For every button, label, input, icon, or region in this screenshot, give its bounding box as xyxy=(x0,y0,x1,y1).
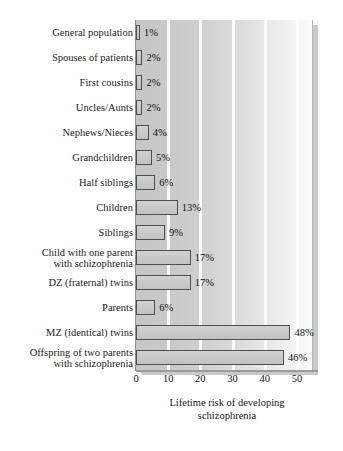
bar xyxy=(136,275,191,290)
bar-row: Half siblings6% xyxy=(0,170,343,195)
bar xyxy=(136,150,152,165)
bar-value-label: 9% xyxy=(169,227,183,238)
bar xyxy=(136,25,140,40)
bar xyxy=(136,225,165,240)
bar-row: DZ (fraternal) twins17% xyxy=(0,270,343,295)
category-label: Child with one parent with schizophrenia xyxy=(0,247,133,269)
category-label: Half siblings xyxy=(0,177,133,188)
x-tick-0: 0 xyxy=(133,373,138,384)
bar-container: 13% xyxy=(136,195,201,220)
bar-rows: General population1%Spouses of patients2… xyxy=(0,20,343,370)
category-label: Children xyxy=(0,202,133,213)
bar-container: 6% xyxy=(136,170,173,195)
category-label: DZ (fraternal) twins xyxy=(0,277,133,288)
bar-container: 2% xyxy=(136,45,160,70)
bar xyxy=(136,325,290,340)
bar xyxy=(136,125,149,140)
x-tick-20: 20 xyxy=(195,373,206,384)
bar-value-label: 17% xyxy=(195,277,214,288)
bar-value-label: 6% xyxy=(159,302,173,313)
category-label: Uncles/Aunts xyxy=(0,102,133,113)
x-axis-title: Lifetime risk of developing schizophreni… xyxy=(136,396,318,422)
bar-row: General population1% xyxy=(0,20,343,45)
bar xyxy=(136,250,191,265)
category-label: Parents xyxy=(0,302,133,313)
x-tick-10: 10 xyxy=(163,373,174,384)
bar-row: Offspring of two parents with schizophre… xyxy=(0,345,343,370)
bar-value-label: 2% xyxy=(146,52,160,63)
bar-row: Grandchildren5% xyxy=(0,145,343,170)
bar-value-label: 13% xyxy=(182,202,201,213)
category-label: Offspring of two parents with schizophre… xyxy=(0,347,133,369)
bar-container: 1% xyxy=(136,20,158,45)
category-label: Grandchildren xyxy=(0,152,133,163)
bar-container: 2% xyxy=(136,70,160,95)
bar-row: First cousins2% xyxy=(0,70,343,95)
schizophrenia-risk-bar-chart: General population1%Spouses of patients2… xyxy=(0,0,343,451)
bar-row: Child with one parent with schizophrenia… xyxy=(0,245,343,270)
bar-container: 9% xyxy=(136,220,183,245)
category-label: Nephews/Nieces xyxy=(0,127,133,138)
bar xyxy=(136,50,142,65)
category-label: Siblings xyxy=(0,227,133,238)
bar-value-label: 5% xyxy=(156,152,170,163)
category-label: First cousins xyxy=(0,77,133,88)
bar-value-label: 2% xyxy=(146,77,160,88)
bar-row: Children13% xyxy=(0,195,343,220)
bar-container: 46% xyxy=(136,345,307,370)
category-label: General population xyxy=(0,27,133,38)
bar-value-label: 48% xyxy=(294,327,313,338)
bar xyxy=(136,200,178,215)
bar-container: 48% xyxy=(136,320,314,345)
x-tick-50: 50 xyxy=(292,373,303,384)
bar-container: 17% xyxy=(136,270,214,295)
bar-container: 17% xyxy=(136,245,214,270)
bar xyxy=(136,75,142,90)
bar-row: Uncles/Aunts2% xyxy=(0,95,343,120)
bar-value-label: 6% xyxy=(159,177,173,188)
bar-row: Parents6% xyxy=(0,295,343,320)
category-label: Spouses of patients xyxy=(0,52,133,63)
x-axis-tick-labels: 01020304050 xyxy=(0,373,343,389)
bar-container: 2% xyxy=(136,95,160,120)
bar-row: Spouses of patients2% xyxy=(0,45,343,70)
bar-row: MZ (identical) twins48% xyxy=(0,320,343,345)
bar-value-label: 4% xyxy=(153,127,167,138)
bar-value-label: 2% xyxy=(146,102,160,113)
bar xyxy=(136,300,155,315)
x-tick-40: 40 xyxy=(259,373,270,384)
bar-row: Siblings9% xyxy=(0,220,343,245)
category-label: MZ (identical) twins xyxy=(0,327,133,338)
bar xyxy=(136,100,142,115)
bar-container: 4% xyxy=(136,120,167,145)
bar xyxy=(136,175,155,190)
bar-value-label: 1% xyxy=(144,27,158,38)
bar xyxy=(136,350,284,365)
bar-container: 5% xyxy=(136,145,170,170)
bar-row: Nephews/Nieces4% xyxy=(0,120,343,145)
bar-container: 6% xyxy=(136,295,173,320)
bar-value-label: 46% xyxy=(288,352,307,363)
bar-value-label: 17% xyxy=(195,252,214,263)
x-tick-30: 30 xyxy=(227,373,238,384)
x-axis-line xyxy=(136,370,318,372)
